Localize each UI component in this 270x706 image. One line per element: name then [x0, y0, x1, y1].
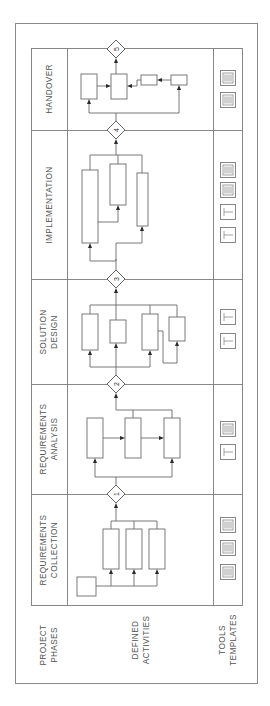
phase-3-line2: DESIGN	[50, 315, 59, 349]
template-icon[interactable]	[221, 71, 236, 86]
template-icon[interactable]	[221, 565, 236, 580]
activity-box	[142, 314, 158, 350]
svg-text:4: 4	[113, 128, 120, 132]
svg-text:3: 3	[113, 277, 120, 281]
svg-text:1: 1	[113, 492, 120, 496]
svg-text:TEMPLATES: TEMPLATES	[229, 614, 238, 666]
project-phases-diagram: HANDOVER IMPLEMENTATION SOLUTION DESIGN …	[0, 0, 270, 706]
template-icon[interactable]	[221, 163, 236, 178]
phase-3-line1: SOLUTION	[39, 309, 48, 354]
svg-text:TOOLS: TOOLS	[218, 625, 227, 655]
activity-box	[125, 418, 141, 458]
activity-box	[149, 529, 165, 569]
phase-1-line2: COLLECTION	[50, 522, 59, 578]
template-icon[interactable]	[221, 518, 236, 533]
outer-frame	[16, 24, 258, 684]
activity-box	[169, 317, 185, 341]
activity-box	[164, 418, 180, 458]
activity-box	[81, 74, 97, 99]
template-icon[interactable]	[221, 422, 236, 437]
activity-box	[126, 529, 142, 569]
activity-start-box	[77, 577, 96, 596]
svg-text:PROJECT: PROJECT	[39, 624, 48, 665]
svg-text:5: 5	[113, 47, 120, 51]
activity-box	[141, 75, 157, 85]
tools-requirements-collection	[221, 518, 236, 580]
tool-icon[interactable]	[221, 228, 236, 243]
tool-icon[interactable]	[221, 205, 236, 220]
activity-box	[110, 164, 126, 205]
activity-box	[137, 173, 148, 226]
phase-label-implementation: IMPLEMENTATION	[45, 166, 54, 243]
activity-box	[111, 74, 127, 99]
svg-text:DEFINED: DEFINED	[131, 621, 140, 660]
svg-text:ACTIVITIES: ACTIVITIES	[142, 616, 151, 665]
phase-1-line1: REQUIREMENTS	[39, 514, 48, 585]
activity-box	[110, 320, 126, 343]
activity-box	[82, 314, 98, 350]
phase-2-line1: REQUIREMENTS	[39, 403, 48, 474]
activity-box	[171, 75, 187, 85]
phase-5-line1: HANDOVER	[45, 64, 54, 114]
svg-text:2: 2	[113, 382, 120, 386]
tool-icon[interactable]	[221, 445, 236, 460]
activity-box	[87, 418, 103, 458]
template-icon[interactable]	[221, 93, 236, 108]
phase-4-line1: IMPLEMENTATION	[45, 166, 54, 243]
phase-label-handover: HANDOVER	[45, 64, 54, 114]
activity-box	[103, 529, 119, 569]
activity-box	[82, 170, 98, 243]
tool-icon[interactable]	[221, 310, 236, 325]
phase-2-line2: ANALYSIS	[50, 418, 59, 461]
template-icon[interactable]	[221, 183, 236, 198]
svg-text:PHASES: PHASES	[50, 627, 59, 663]
tool-icon[interactable]	[221, 334, 236, 349]
template-icon[interactable]	[221, 541, 236, 556]
